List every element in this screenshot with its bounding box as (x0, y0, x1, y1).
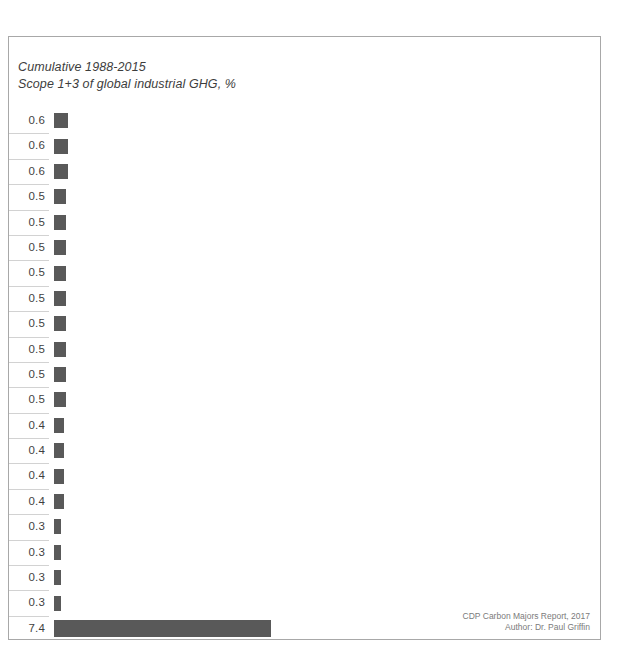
bar-container (54, 108, 68, 133)
bar-container (54, 413, 64, 438)
bar-value-label: 0.3 (9, 590, 45, 615)
bar-rows: 0.60.60.60.50.50.50.50.50.50.50.50.50.40… (9, 108, 602, 641)
bar-container (54, 438, 64, 463)
bar-value-label: 0.5 (9, 260, 45, 285)
bar (54, 113, 68, 128)
bar-value-label: 0.6 (9, 108, 45, 133)
bar-value-label: 0.6 (9, 159, 45, 184)
bar-value-label: 0.4 (9, 438, 45, 463)
bar-row: 0.4 (9, 413, 602, 438)
bar (54, 545, 61, 560)
bar-row: 0.3 (9, 565, 602, 590)
bar (54, 316, 66, 331)
bar-row: 0.5 (9, 235, 602, 260)
bar-container (54, 514, 61, 539)
bar (54, 291, 66, 306)
bar-row: 0.4 (9, 463, 602, 488)
bar-row: 0.3 (9, 540, 602, 565)
bar-value-label: 0.5 (9, 286, 45, 311)
bar-container (54, 616, 271, 641)
bar-container (54, 260, 66, 285)
bar-row: 0.6 (9, 133, 602, 158)
credit-author: Author: Dr. Paul Griffin (463, 622, 590, 633)
bar (54, 596, 61, 611)
bar-container (54, 210, 66, 235)
bar-value-label: 0.3 (9, 514, 45, 539)
bar-value-label: 0.5 (9, 311, 45, 336)
bar-container (54, 337, 66, 362)
bar-value-label: 0.5 (9, 235, 45, 260)
bar-row: 0.5 (9, 387, 602, 412)
bar (54, 620, 271, 637)
bar-row: 0.5 (9, 286, 602, 311)
bar-value-label: 0.4 (9, 489, 45, 514)
chart-title-block: Cumulative 1988-2015 Scope 1+3 of global… (18, 59, 236, 93)
bar-row: 0.4 (9, 489, 602, 514)
bar-value-label: 0.3 (9, 565, 45, 590)
bar-container (54, 184, 66, 209)
bar-row: 0.5 (9, 311, 602, 336)
bar-row: 0.3 (9, 514, 602, 539)
bar-value-label: 0.5 (9, 387, 45, 412)
bar (54, 570, 61, 585)
bar-container (54, 463, 64, 488)
bar (54, 266, 66, 281)
bar (54, 443, 64, 458)
bar-value-label: 7.4 (9, 616, 45, 641)
chart-subtitle: Scope 1+3 of global industrial GHG, % (18, 76, 236, 93)
bar (54, 519, 61, 534)
bar-container (54, 565, 61, 590)
bar (54, 240, 66, 255)
bar-value-label: 0.5 (9, 362, 45, 387)
bar (54, 418, 64, 433)
bar-value-label: 0.5 (9, 337, 45, 362)
bar-row: 0.5 (9, 362, 602, 387)
chart-frame: Cumulative 1988-2015 Scope 1+3 of global… (8, 36, 601, 640)
bar-container (54, 362, 66, 387)
bar-value-label: 0.5 (9, 184, 45, 209)
bar-container (54, 159, 68, 184)
bar-container (54, 311, 66, 336)
bar-value-label: 0.4 (9, 413, 45, 438)
bar-value-label: 0.4 (9, 463, 45, 488)
bar-value-label: 0.5 (9, 210, 45, 235)
bar-value-label: 0.3 (9, 540, 45, 565)
bar (54, 215, 66, 230)
bar-row: 0.5 (9, 210, 602, 235)
credit-source: CDP Carbon Majors Report, 2017 (463, 611, 590, 622)
bar-value-label: 0.6 (9, 133, 45, 158)
bar (54, 367, 66, 382)
bar-row: 0.4 (9, 438, 602, 463)
bar-row: 0.5 (9, 260, 602, 285)
bar-row: 0.5 (9, 184, 602, 209)
bar (54, 164, 68, 179)
bar (54, 392, 66, 407)
bar (54, 494, 64, 509)
bar-container (54, 235, 66, 260)
bar-container (54, 286, 66, 311)
bar-row: 0.6 (9, 108, 602, 133)
bar (54, 139, 68, 154)
bar-container (54, 133, 68, 158)
bar (54, 342, 66, 357)
bar (54, 469, 64, 484)
bar (54, 189, 66, 204)
bar-row: 0.6 (9, 159, 602, 184)
chart-title: Cumulative 1988-2015 (18, 59, 236, 76)
bar-container (54, 590, 61, 615)
bar-row: 0.5 (9, 337, 602, 362)
bar-container (54, 540, 61, 565)
bar-container (54, 387, 66, 412)
chart-credit: CDP Carbon Majors Report, 2017 Author: D… (463, 611, 590, 633)
bar-container (54, 489, 64, 514)
